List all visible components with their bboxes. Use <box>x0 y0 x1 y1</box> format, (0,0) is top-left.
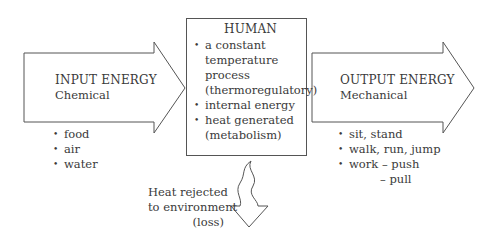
output-list: sit, stand walk, run, jump work – push <box>338 127 441 172</box>
output-title: OUTPUT ENERGY <box>340 73 455 88</box>
list-item: internal energy <box>194 98 317 113</box>
list-item: work – push <box>338 157 441 172</box>
list-item: walk, run, jump <box>338 142 441 157</box>
list-item: a constant temperature process (thermore… <box>194 38 317 98</box>
list-item: water <box>53 157 98 172</box>
input-title: INPUT ENERGY <box>55 73 157 88</box>
output-continuation: – pull <box>380 172 412 187</box>
list-item: heat generated (metabolism) <box>194 113 317 143</box>
heat-loss-arrow <box>231 161 268 227</box>
output-subtitle: Mechanical <box>340 88 407 103</box>
heat-loss-label: Heat rejected to environment (loss) <box>148 185 224 230</box>
list-item: air <box>53 142 98 157</box>
input-list: food air water <box>53 127 98 172</box>
list-item: sit, stand <box>338 127 441 142</box>
human-list: a constant temperature process (thermore… <box>194 38 317 143</box>
list-item: food <box>53 127 98 142</box>
input-subtitle: Chemical <box>55 88 110 103</box>
human-title: HUMAN <box>224 22 277 37</box>
